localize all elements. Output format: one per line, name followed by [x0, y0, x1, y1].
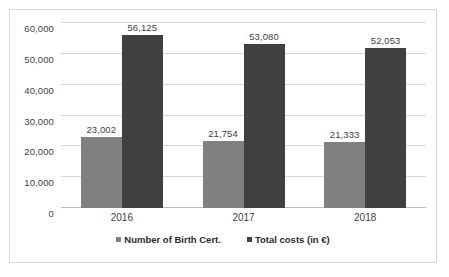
chart-legend: Number of Birth Cert.Total costs (in €) — [10, 234, 436, 245]
chart-frame: 010,00020,00030,00040,00050,00060,000 23… — [9, 9, 437, 263]
bar[interactable] — [324, 142, 365, 208]
bar-value-label: 53,080 — [236, 31, 293, 42]
y-axis: 010,00020,00030,00040,00050,00060,000 — [10, 23, 58, 208]
bar[interactable] — [81, 137, 122, 208]
bar-value-label: 52,053 — [357, 35, 414, 46]
legend-label: Number of Birth Cert. — [124, 234, 221, 245]
bar[interactable] — [203, 141, 244, 208]
legend-swatch-icon — [247, 237, 252, 242]
bar-group: 21,33352,053 — [324, 23, 406, 208]
bars-layer: 23,00256,12521,75453,08021,33352,053 — [61, 23, 426, 208]
bar-group: 21,75453,080 — [203, 23, 285, 208]
bar-value-label: 56,125 — [114, 22, 171, 33]
legend-item[interactable]: Number of Birth Cert. — [116, 234, 221, 245]
legend-swatch-icon — [116, 237, 121, 242]
bar[interactable] — [122, 35, 163, 208]
bar-group: 23,00256,125 — [81, 23, 163, 208]
legend-item[interactable]: Total costs (in €) — [247, 234, 330, 245]
bar[interactable] — [365, 48, 406, 208]
bar[interactable] — [244, 44, 285, 208]
x-axis-tick-label: 2018 — [354, 212, 376, 223]
x-axis: 201620172018 — [61, 210, 426, 228]
x-axis-tick-label: 2016 — [111, 212, 133, 223]
legend-label: Total costs (in €) — [255, 234, 330, 245]
x-axis-tick-label: 2017 — [232, 212, 254, 223]
